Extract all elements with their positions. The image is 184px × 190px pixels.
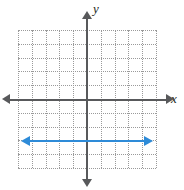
x-axis <box>8 99 168 101</box>
plotted-line-arrow-right-icon <box>144 136 153 146</box>
y-axis <box>86 18 88 180</box>
x-axis-arrow-left-icon <box>2 94 10 104</box>
y-axis-label: y <box>93 2 99 15</box>
coordinate-plane-figure: y x <box>0 0 184 190</box>
y-axis-arrow-up-icon <box>82 11 92 19</box>
x-axis-label: x <box>171 92 177 105</box>
plotted-line <box>30 140 144 142</box>
y-axis-arrow-down-icon <box>82 179 92 187</box>
plotted-line-arrow-left-icon <box>21 136 30 146</box>
